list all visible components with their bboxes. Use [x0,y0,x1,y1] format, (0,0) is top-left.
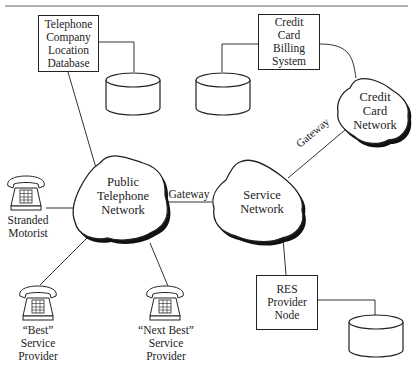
node-label: Credit [342,90,408,104]
label-next-best-service-provider: “Next Best” Service Provider [130,324,202,363]
telephone-icon-next-best-provider [147,286,184,320]
node-label: Provider [10,350,66,363]
telephone-icon-stranded-motorist [8,176,45,210]
gateway-label-service-credit: Gateway [294,115,332,150]
node-label: System [272,55,306,68]
node-label: Database [45,57,93,70]
database-cylinder-icon [106,73,160,115]
node-label: Service [130,337,202,350]
node-label: Service [222,188,302,202]
box-credit-card-billing-system: Credit Card Billing System [258,14,320,70]
node-label: Network [222,202,302,216]
node-label: Company [45,31,93,44]
cloud-text-service-network: Service Network [222,188,302,216]
label-best-service-provider: “Best” Service Provider [10,324,66,363]
node-label: Network [342,118,408,132]
database-cylinder-icon [349,315,403,357]
node-label: Network [78,203,168,217]
node-label: Billing [272,42,306,55]
node-label: Telephone [78,189,168,203]
node-label: “Best” [10,324,66,337]
cloud-text-public-telephone-network: Public Telephone Network [78,175,168,217]
node-label: Node [267,309,307,322]
label-stranded-motorist: Stranded Motorist [0,214,56,240]
node-label: Provider [267,296,307,309]
cloud-text-credit-card-network: Credit Card Network [342,90,408,132]
telephone-icon-best-provider [20,286,57,320]
node-label: Provider [130,350,202,363]
node-label: “Next Best” [130,324,202,337]
database-cylinder-icon [196,73,250,115]
node-label: Service [10,337,66,350]
node-label: Motorist [0,227,56,240]
node-label: Card [342,104,408,118]
node-label: RES [267,283,307,296]
node-label: Credit [272,16,306,29]
gateway-label-ptn-service: Gateway [164,188,214,201]
node-label: Card [272,29,306,42]
node-label: Public [78,175,168,189]
box-telephone-company-location-database: Telephone Company Location Database [38,15,99,72]
node-label: Location [45,44,93,57]
node-label: Telephone [45,18,93,31]
node-label: Stranded [0,214,56,227]
box-res-provider-node: RES Provider Node [256,275,318,330]
